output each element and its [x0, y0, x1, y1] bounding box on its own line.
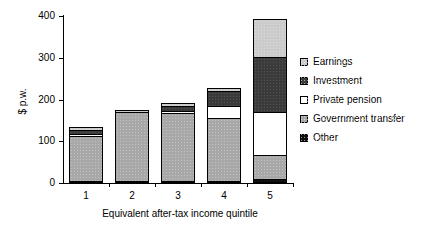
legend-swatch-private-pension	[300, 96, 308, 104]
y-tick-mark	[59, 183, 64, 184]
legend-swatch-government-transfer	[300, 115, 308, 123]
legend-item-other[interactable]: Other	[300, 128, 428, 147]
legend-label: Earnings	[313, 56, 352, 67]
x-tick-mark	[155, 183, 156, 187]
bar-segment-government-transfer	[115, 112, 149, 181]
legend-item-private-pension[interactable]: Private pension	[300, 90, 428, 109]
x-axis-title: Equivalent after-tax income quintile	[40, 208, 320, 219]
bar-segment-other	[253, 179, 287, 183]
bar-quintile-3[interactable]	[161, 103, 195, 183]
legend-swatch-other	[300, 134, 308, 142]
y-axis-title: $ p.w.	[17, 74, 28, 130]
y-tick-label: 400	[15, 11, 55, 21]
legend-swatch-earnings	[300, 58, 308, 66]
bar-segment-other	[115, 181, 149, 183]
bar-segment-private-pension	[253, 112, 287, 155]
x-tick-mark	[109, 183, 110, 187]
x-tick-label-2: 2	[120, 190, 144, 201]
bar-segment-earnings	[253, 19, 287, 57]
bar-segment-government-transfer	[69, 136, 103, 181]
legend-item-government-transfer[interactable]: Government transfer	[300, 109, 428, 128]
x-axis-line	[63, 183, 294, 184]
x-tick-mark	[201, 183, 202, 187]
legend-label: Other	[313, 132, 338, 143]
bar-segment-government-transfer	[161, 113, 195, 181]
x-tick-label-5: 5	[258, 190, 282, 201]
legend-label: Investment	[313, 75, 362, 86]
bar-segment-other	[69, 181, 103, 183]
y-tick-label: 0	[15, 178, 55, 188]
bar-segment-other	[207, 181, 241, 183]
legend-label: Government transfer	[313, 113, 405, 124]
legend-label: Private pension	[313, 94, 382, 105]
x-tick-mark	[293, 183, 294, 187]
bar-segment-private-pension	[207, 106, 241, 118]
stacked-bar-chart: 0100200300400 12345 $ p.w. Equivalent af…	[0, 0, 428, 236]
legend-item-investment[interactable]: Investment	[300, 71, 428, 90]
legend-swatch-investment	[300, 77, 308, 85]
x-tick-mark	[247, 183, 248, 187]
legend-item-earnings[interactable]: Earnings	[300, 52, 428, 71]
bar-quintile-2[interactable]	[115, 110, 149, 183]
chart-legend: EarningsInvestmentPrivate pensionGovernm…	[300, 52, 428, 147]
bar-segment-investment	[207, 91, 241, 106]
y-tick-label: 100	[15, 136, 55, 146]
x-tick-label-3: 3	[166, 190, 190, 201]
x-tick-label-4: 4	[212, 190, 236, 201]
bar-quintile-5[interactable]	[253, 19, 287, 183]
bar-quintile-4[interactable]	[207, 88, 241, 183]
x-tick-label-1: 1	[74, 190, 98, 201]
bar-quintile-1[interactable]	[69, 127, 103, 183]
bar-segment-investment	[253, 57, 287, 113]
plot-area	[63, 16, 293, 183]
bar-segment-other	[161, 181, 195, 183]
bar-segment-government-transfer	[253, 155, 287, 179]
bar-segment-government-transfer	[207, 118, 241, 181]
y-tick-label: 300	[15, 53, 55, 63]
